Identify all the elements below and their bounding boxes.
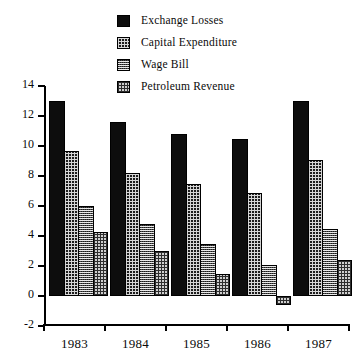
bar [93,232,109,297]
bar [293,101,309,296]
y-axis-tick-label: 10 [22,137,34,152]
y-axis-tick-label: 2 [28,257,34,272]
bar [139,224,155,296]
y-axis-tick: 6 [38,205,45,207]
y-axis-tick-label: 14 [22,77,34,92]
y-axis-tick-mark [38,205,45,207]
y-axis-tick-mark [38,265,45,267]
bar [110,122,126,296]
y-axis-tick-mark [38,235,45,237]
x-axis-tick [104,324,106,331]
y-axis-tick: 4 [38,235,45,237]
y-axis-tick: 2 [38,265,45,267]
bar [247,193,263,297]
bar [232,139,248,297]
y-axis-tick-mark [38,295,45,297]
y-axis-tick: 14 [38,85,45,87]
y-axis-tick-mark [38,85,45,87]
bar [49,101,65,296]
y-axis-tick-label: -2 [24,317,34,332]
bar [322,229,338,297]
x-axis-tick [287,324,289,331]
bar [200,244,216,297]
bar [171,134,187,296]
x-axis-label-1985: 1985 [167,336,227,352]
x-axis-line [44,324,349,326]
y-axis-tick: 12 [38,115,45,117]
bar [125,173,141,296]
x-axis-label-1983: 1983 [45,336,105,352]
bar [78,206,94,296]
y-axis-tick: 0 [38,295,45,297]
bar [64,151,80,297]
y-axis-tick-mark [38,115,45,117]
y-axis-tick-mark [38,145,45,147]
y-axis-tick-mark [38,175,45,177]
y-axis-tick-label: 12 [22,107,34,122]
bar-chart-plot-area: 14121086420-2 19831984198519861987 [0,0,358,363]
x-axis-tick [226,324,228,331]
y-axis-tick: 8 [38,175,45,177]
y-axis-tick-label: 4 [28,227,34,242]
y-axis-tick-label: 0 [28,287,34,302]
x-axis-tick [165,324,167,331]
x-axis-tick [348,324,350,331]
y-axis-tick: 10 [38,145,45,147]
bar [276,296,292,305]
x-axis-label-1987: 1987 [289,336,349,352]
x-axis-label-1984: 1984 [106,336,166,352]
x-axis-label-1986: 1986 [228,336,288,352]
x-axis-tick [43,324,45,331]
bar [154,251,170,296]
y-axis-tick-label: 6 [28,197,34,212]
bar [337,260,353,296]
bar [215,274,231,297]
y-axis-tick-label: 8 [28,167,34,182]
bar [186,184,202,297]
bar [261,265,277,297]
bar [308,160,324,297]
